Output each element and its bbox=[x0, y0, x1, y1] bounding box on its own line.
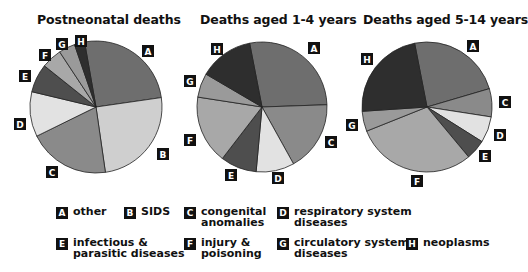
legend-label: circulatory system diseases bbox=[294, 237, 409, 259]
legend-label: respiratory system diseases bbox=[294, 206, 412, 228]
legend-item-other: A other bbox=[56, 206, 107, 219]
legend-key-a: A bbox=[56, 207, 68, 219]
legend-item-injury: F injury & poisoning bbox=[184, 237, 262, 259]
legend-label: injury & poisoning bbox=[201, 237, 262, 259]
legend-label: neoplasms bbox=[423, 237, 489, 248]
legend-key-g: G bbox=[277, 238, 289, 250]
slice-label-f: F bbox=[42, 51, 48, 61]
legend-label: SIDS bbox=[141, 206, 170, 217]
slice-label-f: F bbox=[187, 136, 193, 146]
legend-item-circulatory: G circulatory system diseases bbox=[277, 237, 409, 259]
pie-chart-3: ACDEFGH bbox=[346, 40, 511, 187]
slice-label-h: H bbox=[213, 45, 221, 55]
slice-label-b: B bbox=[160, 150, 167, 160]
legend-key-b: B bbox=[124, 207, 136, 219]
slice-label-d: D bbox=[16, 120, 23, 130]
pie-charts: ABCDEFGHACDEFGHACDEFGH bbox=[0, 0, 520, 200]
slice-label-g: G bbox=[186, 77, 193, 87]
slice-label-c: C bbox=[328, 138, 335, 148]
legend-key-f: F bbox=[184, 238, 196, 250]
legend-label: other bbox=[73, 206, 107, 217]
slice-label-h: H bbox=[363, 55, 371, 65]
legend-item-respiratory: D respiratory system diseases bbox=[277, 206, 412, 228]
slice-label-a: A bbox=[311, 44, 318, 54]
slice-label-h: H bbox=[77, 37, 85, 47]
legend-key-h: H bbox=[406, 238, 418, 250]
slice-label-g: G bbox=[58, 40, 65, 50]
legend-label: infectious & parasitic diseases bbox=[73, 237, 184, 259]
legend-item-congenital-anomalies: C congenital anomalies bbox=[184, 206, 266, 228]
legend-key-c: C bbox=[184, 207, 196, 219]
slice-label-c: C bbox=[502, 98, 509, 108]
legend-item-infectious: E infectious & parasitic diseases bbox=[56, 237, 184, 259]
pie-chart-1: ABCDEFGH bbox=[14, 35, 169, 178]
legend-label: congenital anomalies bbox=[201, 206, 266, 228]
legend-key-e: E bbox=[56, 238, 68, 250]
pie-slice-b bbox=[96, 98, 162, 173]
legend-key-d: D bbox=[277, 207, 289, 219]
slice-label-e: E bbox=[22, 72, 28, 82]
legend-item-sids: B SIDS bbox=[124, 206, 170, 219]
legend-item-neoplasms: H neoplasms bbox=[406, 237, 489, 250]
slice-label-d: D bbox=[496, 131, 503, 141]
slice-label-d: D bbox=[274, 174, 281, 184]
slice-label-f: F bbox=[414, 177, 420, 187]
slice-label-g: G bbox=[348, 121, 355, 131]
slice-label-c: C bbox=[49, 168, 56, 178]
slice-label-e: E bbox=[482, 152, 488, 162]
slice-label-a: A bbox=[145, 47, 152, 57]
slice-label-e: E bbox=[228, 171, 234, 181]
pie-chart-2: ACDEFGH bbox=[184, 42, 337, 184]
slice-label-a: A bbox=[470, 42, 477, 52]
